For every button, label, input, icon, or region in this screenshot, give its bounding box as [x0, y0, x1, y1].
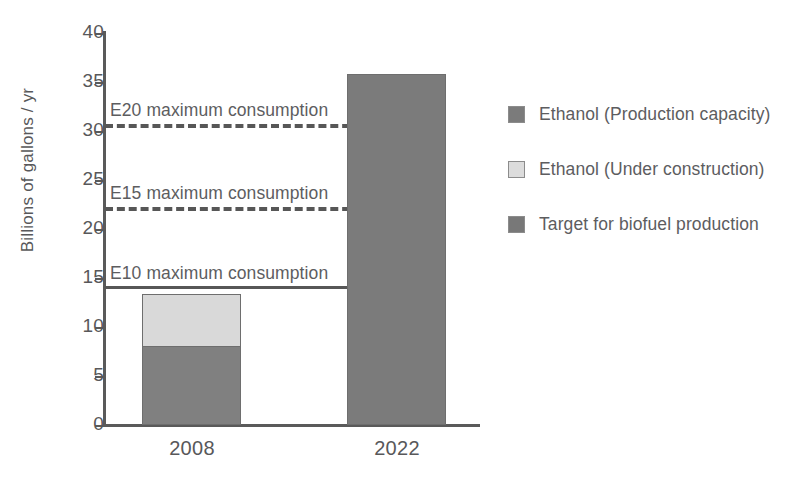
- legend-swatch-icon-under-construction: [508, 161, 525, 178]
- y-tick-label-30: 30: [44, 119, 104, 141]
- y-tick-label-5: 5: [44, 364, 104, 386]
- y-tick-label-20: 20: [44, 217, 104, 239]
- legend-label-under-construction: Ethanol (Under construction): [539, 159, 765, 180]
- y-tick-label-15: 15: [44, 266, 104, 288]
- x-label-2022: 2022: [337, 437, 457, 460]
- legend-swatch-icon-production-capacity: [508, 106, 525, 123]
- bar-2008[interactable]: [142, 33, 241, 425]
- legend-swatch-icon-target-biofuel: [508, 216, 525, 233]
- y-tick-label-25: 25: [44, 168, 104, 190]
- y-tick-label-10: 10: [44, 315, 104, 337]
- legend-item-production-capacity[interactable]: Ethanol (Production capacity): [508, 104, 771, 125]
- y-tick-label-0: 0: [44, 413, 104, 435]
- bar-segment-target-biofuel[interactable]: [347, 74, 446, 425]
- legend-label-production-capacity: Ethanol (Production capacity): [539, 104, 771, 125]
- y-tick-label-35: 35: [44, 70, 104, 92]
- bar-segment-under-construction[interactable]: [142, 294, 241, 347]
- legend-item-under-construction[interactable]: Ethanol (Under construction): [508, 159, 765, 180]
- y-axis-title: Billions of gallons / yr: [18, 50, 38, 290]
- legend-label-target-biofuel: Target for biofuel production: [539, 214, 759, 235]
- legend-item-target-biofuel[interactable]: Target for biofuel production: [508, 214, 759, 235]
- x-label-2008: 2008: [132, 437, 252, 460]
- bar-segment-production-capacity[interactable]: [142, 346, 241, 425]
- chart-figure: Billions of gallons / yr 40 35 30 25 20 …: [0, 0, 811, 483]
- y-tick-label-40: 40: [44, 21, 104, 43]
- bar-2022[interactable]: [347, 33, 446, 425]
